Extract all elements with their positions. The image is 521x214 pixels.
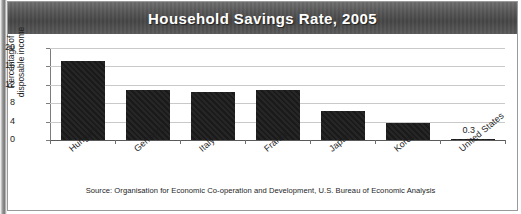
bar-value-label: 0.3 (463, 125, 476, 135)
gridline (50, 85, 505, 86)
y-axis-tick-label: 4 (0, 117, 15, 126)
y-axis-tick-label: 16 (0, 61, 15, 70)
x-axis-tick-mark (115, 140, 116, 144)
x-axis-tick-mark (50, 140, 51, 144)
y-axis-tick-label: 20 (0, 43, 15, 52)
y-axis-title-line-2: disposable income (16, 10, 26, 114)
page-title: Household Savings Rate, 2005 (148, 10, 377, 27)
source-note: Source: Organisation for Economic Co-ope… (0, 186, 521, 195)
x-axis-tick-mark (180, 140, 181, 144)
title-bar: Household Savings Rate, 2005 (8, 2, 517, 34)
gridline (50, 66, 505, 67)
y-axis-tick-label: 12 (0, 80, 15, 89)
y-axis-tick-label: 0 (0, 135, 15, 144)
x-axis-tick-mark (375, 140, 376, 144)
gridline (50, 48, 505, 49)
x-axis-tick-mark (245, 140, 246, 144)
x-axis-tick-mark (440, 140, 441, 144)
x-axis-tick-mark (505, 140, 506, 144)
chart-figure: Household Savings Rate, 2005 Percentage … (0, 0, 521, 214)
x-axis-tick-mark (310, 140, 311, 144)
y-axis-tick-label: 8 (0, 98, 15, 107)
bar (191, 92, 235, 140)
